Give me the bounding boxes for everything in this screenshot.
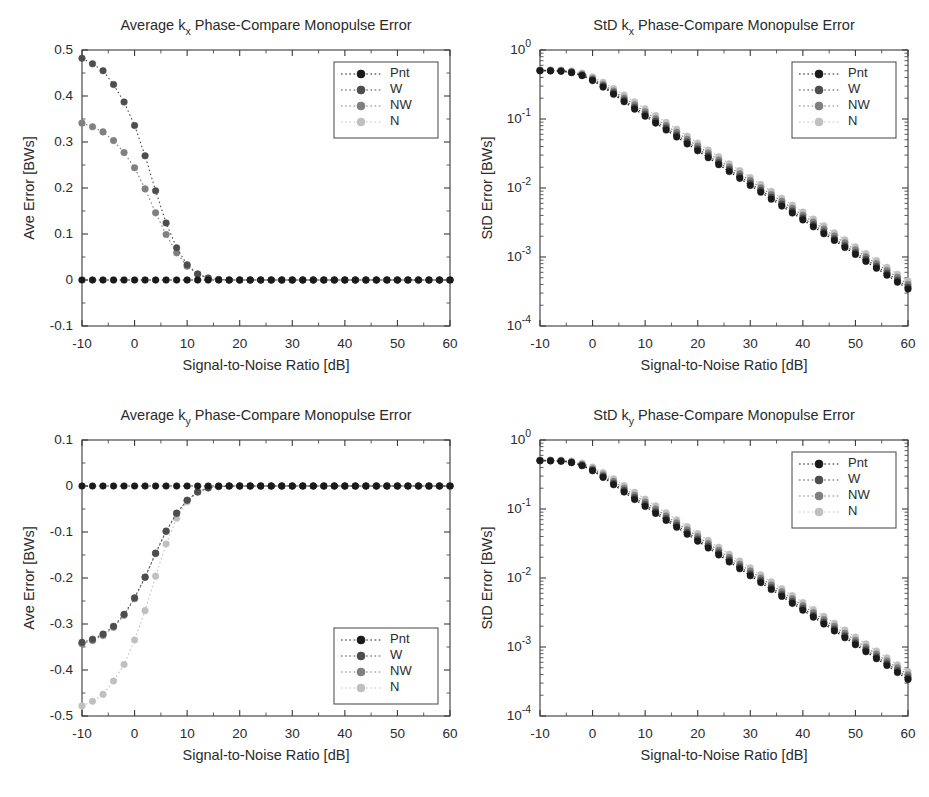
legend-label-N: N [848, 503, 857, 518]
x-tick-label: 20 [690, 336, 705, 351]
data-point [79, 639, 86, 646]
x-tick-label: 30 [743, 726, 758, 741]
data-point [631, 106, 638, 113]
data-point [884, 662, 891, 669]
data-point [663, 127, 670, 134]
x-tick-label: 20 [232, 336, 247, 351]
x-tick-label: 20 [232, 726, 247, 741]
x-tick-label: 30 [285, 336, 300, 351]
data-point [79, 55, 86, 62]
y-tick-label: 0.1 [54, 432, 73, 447]
legend-box [792, 452, 896, 528]
data-point [321, 483, 328, 490]
data-point [300, 483, 307, 490]
x-tick-label: 0 [589, 336, 597, 351]
x-tick-label: 10 [180, 726, 195, 741]
chart-title: Average ky Phase-Compare Monopulse Error [120, 407, 411, 427]
data-point [579, 462, 586, 469]
data-point [205, 277, 212, 284]
x-tick-label: 40 [337, 726, 352, 741]
y-axis-label: Ave Error [BWs] [21, 526, 37, 630]
data-point [100, 691, 107, 698]
series-NW [79, 120, 454, 283]
data-point [663, 517, 670, 524]
chart-panel-std-ky: StD ky Phase-Compare Monopulse Error-100… [476, 398, 926, 788]
legend-label-W: W [390, 647, 403, 662]
legend-label-NW: NW [848, 487, 870, 502]
data-point [558, 68, 565, 75]
chart-svg-ave-ky: Average ky Phase-Compare Monopulse Error… [18, 398, 468, 788]
data-point [447, 483, 454, 490]
legend-marker [815, 492, 823, 500]
figure-canvas: Average kx Phase-Compare Monopulse Error… [0, 0, 929, 797]
x-tick-label: 40 [795, 726, 810, 741]
y-axis-label: StD Error [BWs] [479, 136, 495, 239]
data-point [79, 277, 86, 284]
data-point [779, 203, 786, 210]
data-point [673, 134, 680, 141]
series-W [79, 483, 454, 646]
data-point [257, 277, 264, 284]
data-point [163, 231, 170, 238]
data-point [205, 483, 212, 490]
data-point [331, 483, 338, 490]
data-point [89, 277, 96, 284]
data-point [142, 607, 149, 614]
chart-title: StD kx Phase-Compare Monopulse Error [593, 17, 855, 37]
data-point [821, 621, 828, 628]
data-point [247, 277, 254, 284]
y-tick-label: 10-2 [507, 175, 532, 195]
data-point [152, 550, 159, 557]
data-point [131, 277, 138, 284]
data-point [810, 614, 817, 621]
data-point [236, 277, 243, 284]
data-point [110, 623, 117, 630]
legend-label-NW: NW [848, 97, 870, 112]
data-point [621, 489, 628, 496]
data-point [642, 113, 649, 120]
data-point [352, 483, 359, 490]
legend-label-Pnt: Pnt [390, 65, 410, 80]
data-point [121, 483, 128, 490]
data-point [79, 120, 86, 127]
data-point [736, 175, 743, 182]
data-point [89, 636, 96, 643]
data-point [321, 277, 328, 284]
chart-panel-ave-kx: Average kx Phase-Compare Monopulse Error… [18, 8, 468, 398]
data-point [342, 277, 349, 284]
data-point [810, 224, 817, 231]
legend-label-N: N [848, 113, 857, 128]
series-line [82, 486, 450, 642]
data-point [89, 698, 96, 705]
data-point [894, 669, 901, 676]
data-point [352, 277, 359, 284]
data-point [194, 483, 201, 490]
data-point [278, 277, 285, 284]
data-point [705, 545, 712, 552]
data-point [447, 277, 454, 284]
data-point [415, 483, 422, 490]
data-point [610, 481, 617, 488]
legend: PntWNWN [334, 62, 438, 138]
data-point [800, 217, 807, 224]
data-point [226, 277, 233, 284]
x-tick-label: 50 [390, 726, 405, 741]
data-point [652, 120, 659, 127]
series-line [82, 486, 450, 644]
data-point [152, 277, 159, 284]
legend-label-Pnt: Pnt [848, 65, 868, 80]
data-point [152, 187, 159, 194]
y-tick-label: 0 [65, 478, 73, 493]
data-point [173, 510, 180, 517]
data-point [642, 503, 649, 510]
x-tick-label: -10 [72, 726, 92, 741]
data-point [394, 277, 401, 284]
data-point [173, 245, 180, 252]
data-point [894, 279, 901, 286]
data-point [247, 483, 254, 490]
data-point [121, 277, 128, 284]
legend: PntWNWN [792, 62, 896, 138]
legend-label-W: W [390, 81, 403, 96]
data-point [705, 154, 712, 161]
data-point [342, 483, 349, 490]
